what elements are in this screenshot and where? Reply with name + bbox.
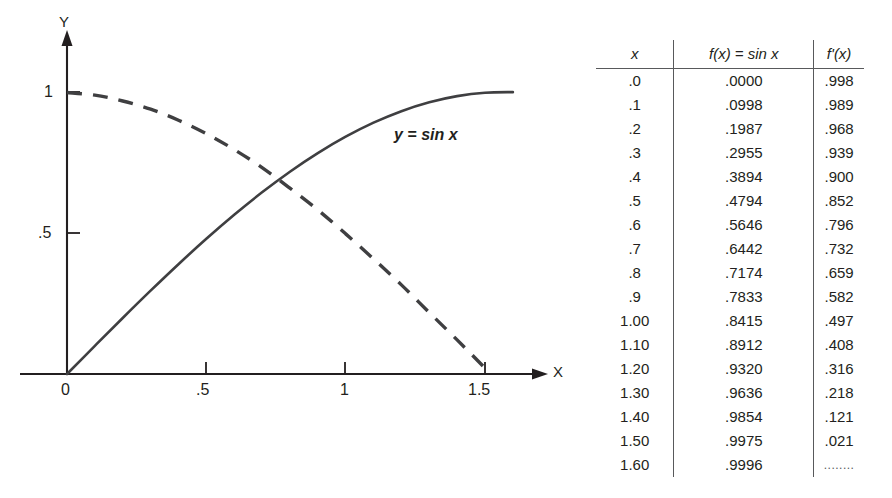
table-row: .5.4794.852 [596, 189, 864, 213]
cell-fprime: .659 [814, 261, 864, 285]
cell-fx: .8912 [674, 333, 814, 357]
cell-fx: .2955 [674, 141, 814, 165]
cell-fprime: .796 [814, 213, 864, 237]
y-tick-label-1: 1 [44, 84, 53, 100]
cell-fprime: .121 [814, 405, 864, 429]
cell-fprime: .021 [814, 429, 864, 453]
column-header-x: x [596, 40, 674, 69]
y-tick-label-05: .5 [38, 225, 51, 241]
cell-x: 1.10 [596, 333, 674, 357]
cell-fx: .7833 [674, 285, 814, 309]
cell-x: .9 [596, 285, 674, 309]
cell-fx: .3894 [674, 165, 814, 189]
cell-fx: .8415 [674, 309, 814, 333]
table-row: .4.3894.900 [596, 165, 864, 189]
cell-fprime: .939 [814, 141, 864, 165]
cell-fprime: .900 [814, 165, 864, 189]
table-header-row: x f(x) = sin x f'(x) [596, 40, 864, 69]
column-header-fx: f(x) = sin x [674, 40, 814, 69]
graph-canvas [0, 0, 570, 498]
cell-x: .4 [596, 165, 674, 189]
cell-fprime: .497 [814, 309, 864, 333]
cell-fx: .9636 [674, 381, 814, 405]
cell-fprime: .998 [814, 69, 864, 94]
table-body: .0.0000.998.1.0998.989.2.1987.968.3.2955… [596, 69, 864, 478]
cell-x: .2 [596, 117, 674, 141]
y-axis-arrowhead [62, 30, 73, 46]
column-header-fprime: f'(x) [814, 40, 864, 69]
y-axis [62, 30, 73, 374]
x-axis-label: X [553, 364, 563, 379]
cell-fprime: .408 [814, 333, 864, 357]
cell-fx: .9996 [674, 453, 814, 477]
sine-values-table: x f(x) = sin x f'(x) .0.0000.998.1.0998.… [596, 40, 864, 477]
table-row: 1.60.9996........ [596, 453, 864, 477]
table-row: .7.6442.732 [596, 237, 864, 261]
cell-x: .0 [596, 69, 674, 94]
table-row: 1.30.9636.218 [596, 381, 864, 405]
cell-x: 1.00 [596, 309, 674, 333]
cell-fx: .9320 [674, 357, 814, 381]
cell-x: .8 [596, 261, 674, 285]
cell-x: 1.20 [596, 357, 674, 381]
table-row: 1.00.8415.497 [596, 309, 864, 333]
table-row: .8.7174.659 [596, 261, 864, 285]
cell-fprime: .218 [814, 381, 864, 405]
table-row: 1.20.9320.316 [596, 357, 864, 381]
table-row: 1.50.9975.021 [596, 429, 864, 453]
table-header: x f(x) = sin x f'(x) [596, 40, 864, 69]
x-axis-arrowhead [532, 369, 548, 380]
cell-fprime: .582 [814, 285, 864, 309]
cell-x: .3 [596, 141, 674, 165]
cell-fx: .5646 [674, 213, 814, 237]
table-row: 1.40.9854.121 [596, 405, 864, 429]
cell-x: .6 [596, 213, 674, 237]
x-tick-label-15: 1.5 [468, 382, 490, 398]
cell-x: 1.30 [596, 381, 674, 405]
cell-x: 1.50 [596, 429, 674, 453]
cell-fx: .6442 [674, 237, 814, 261]
cell-fprime: .732 [814, 237, 864, 261]
cell-fx: .0998 [674, 93, 814, 117]
cell-fx: .4794 [674, 189, 814, 213]
x-tick-label-05: .5 [196, 382, 209, 398]
cell-fprime: .316 [814, 357, 864, 381]
y-tick-marks [67, 92, 80, 233]
cell-fx: .7174 [674, 261, 814, 285]
cell-x: 1.40 [596, 405, 674, 429]
x-tick-marks [206, 362, 485, 374]
cell-fx: .1987 [674, 117, 814, 141]
cell-x: 1.60 [596, 453, 674, 477]
cell-fx: .9975 [674, 429, 814, 453]
table-row: .3.2955.939 [596, 141, 864, 165]
x-tick-label-1: 1 [340, 382, 349, 398]
cell-x: .1 [596, 93, 674, 117]
table-row: .0.0000.998 [596, 69, 864, 94]
cell-x: .5 [596, 189, 674, 213]
cell-fx: .9854 [674, 405, 814, 429]
cell-fx: .0000 [674, 69, 814, 94]
values-table-panel: x f(x) = sin x f'(x) .0.0000.998.1.0998.… [596, 40, 864, 477]
y-axis-label: Y [59, 14, 69, 29]
graph-panel: Y X 1 .5 0 .5 1 1.5 y = sin x [0, 0, 570, 498]
table-row: 1.10.8912.408 [596, 333, 864, 357]
sine-curve-annotation: y = sin x [394, 127, 458, 143]
table-row: .6.5646.796 [596, 213, 864, 237]
cell-fprime: ........ [814, 453, 864, 477]
table-row: .1.0998.989 [596, 93, 864, 117]
cell-fprime: .989 [814, 93, 864, 117]
table-row: .2.1987.968 [596, 117, 864, 141]
cell-fprime: .968 [814, 117, 864, 141]
cell-x: .7 [596, 237, 674, 261]
x-axis [20, 369, 548, 380]
table-row: .9.7833.582 [596, 285, 864, 309]
cell-fprime: .852 [814, 189, 864, 213]
x-tick-label-0: 0 [61, 382, 70, 398]
sine-function-figure: Y X 1 .5 0 .5 1 1.5 y = sin x x f(x) = s… [0, 0, 892, 498]
